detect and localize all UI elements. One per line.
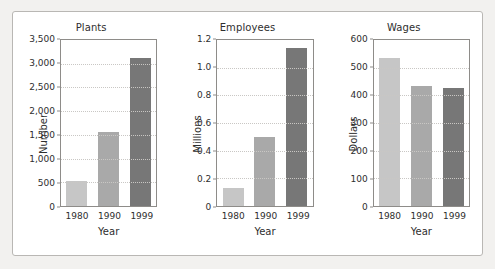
chart-panel-wages: Wages Dollars 1980 1990 1999 Year 010020… — [326, 12, 482, 255]
y-tick-mark — [370, 207, 373, 208]
figure-panel: Plants Number 1980 1990 1999 Year 05001,… — [12, 11, 483, 256]
y-tick-mark — [213, 39, 216, 40]
bar-wages-1980 — [379, 58, 400, 206]
y-tick-mark — [57, 159, 60, 160]
chart-panel-employees: Employees Millions 1980 1990 1999 Year 0… — [169, 12, 325, 255]
plot-wrap-wages: 1980 1990 1999 Year 0100200300400500600 — [373, 39, 470, 207]
plot-area-employees — [216, 39, 313, 207]
bar-employees-1990 — [254, 137, 275, 206]
y-tick-label: 1,500 — [29, 130, 60, 140]
x-tick-plants-1: 1990 — [98, 211, 119, 221]
plot-area-plants — [60, 39, 157, 207]
gridline — [374, 95, 469, 96]
bars-layer-plants — [61, 40, 156, 206]
plot-wrap-plants: 1980 1990 1999 Year 05001,0001,5002,0002… — [60, 39, 157, 207]
y-tick-mark — [213, 123, 216, 124]
bar-plants-1980 — [66, 181, 87, 206]
x-axis-ticks-employees: 1980 1990 1999 — [216, 207, 313, 221]
y-tick-mark — [370, 123, 373, 124]
y-tick-mark — [57, 183, 60, 184]
bar-plants-1999 — [130, 58, 151, 206]
y-tick-mark — [213, 151, 216, 152]
chart-title-wages: Wages — [326, 22, 482, 33]
gridline — [61, 135, 156, 136]
gridline — [61, 159, 156, 160]
gridline — [61, 182, 156, 183]
x-tick-employees-2: 1999 — [287, 211, 308, 221]
gridline — [217, 178, 312, 179]
y-tick-mark — [57, 87, 60, 88]
x-tick-employees-0: 1980 — [222, 211, 243, 221]
y-tick-label: 2,500 — [29, 82, 60, 92]
bar-employees-1980 — [223, 188, 244, 206]
y-tick-mark — [213, 179, 216, 180]
chart-title-employees: Employees — [169, 22, 325, 33]
y-tick-mark — [57, 207, 60, 208]
chart-panel-plants: Plants Number 1980 1990 1999 Year 05001,… — [13, 12, 169, 255]
y-tick-mark — [213, 95, 216, 96]
y-tick-mark — [57, 111, 60, 112]
gridline — [217, 68, 312, 69]
y-tick-mark — [213, 207, 216, 208]
y-tick-label: 1,000 — [29, 154, 60, 164]
plot-area-wages — [373, 39, 470, 207]
gridline — [374, 178, 469, 179]
gridline — [217, 123, 312, 124]
y-tick-mark — [57, 135, 60, 136]
gridline — [374, 151, 469, 152]
bar-employees-1999 — [286, 48, 307, 206]
y-tick-label: 2,000 — [29, 106, 60, 116]
x-tick-wages-1: 1990 — [411, 211, 432, 221]
bar-wages-1999 — [443, 88, 464, 206]
x-axis-label-employees: Year — [216, 226, 313, 237]
gridline — [374, 123, 469, 124]
y-tick-mark — [57, 39, 60, 40]
charts-row: Plants Number 1980 1990 1999 Year 05001,… — [13, 12, 482, 255]
x-tick-employees-1: 1990 — [254, 211, 275, 221]
gridline — [217, 95, 312, 96]
chart-title-plants: Plants — [13, 22, 169, 33]
y-tick-mark — [370, 179, 373, 180]
gridline — [61, 87, 156, 88]
y-tick-mark — [57, 63, 60, 64]
gridline — [61, 111, 156, 112]
gridline — [61, 64, 156, 65]
x-tick-plants-0: 1980 — [66, 211, 87, 221]
y-tick-mark — [370, 39, 373, 40]
gridline — [374, 68, 469, 69]
y-tick-mark — [213, 67, 216, 68]
gridline — [217, 151, 312, 152]
bar-wages-1990 — [411, 86, 432, 206]
x-tick-wages-0: 1980 — [378, 211, 399, 221]
y-tick-label: 3,000 — [29, 58, 60, 68]
plot-wrap-employees: 1980 1990 1999 Year 00.20.40.60.81.01.2 — [216, 39, 313, 207]
x-axis-label-wages: Year — [373, 226, 470, 237]
y-tick-label: 3,500 — [29, 34, 60, 44]
x-tick-wages-2: 1999 — [443, 211, 464, 221]
x-axis-ticks-wages: 1980 1990 1999 — [373, 207, 470, 221]
x-tick-plants-2: 1999 — [130, 211, 151, 221]
y-tick-mark — [370, 151, 373, 152]
y-tick-mark — [370, 67, 373, 68]
y-tick-mark — [370, 95, 373, 96]
x-axis-label-plants: Year — [60, 226, 157, 237]
bar-plants-1990 — [98, 132, 119, 206]
x-axis-ticks-plants: 1980 1990 1999 — [60, 207, 157, 221]
